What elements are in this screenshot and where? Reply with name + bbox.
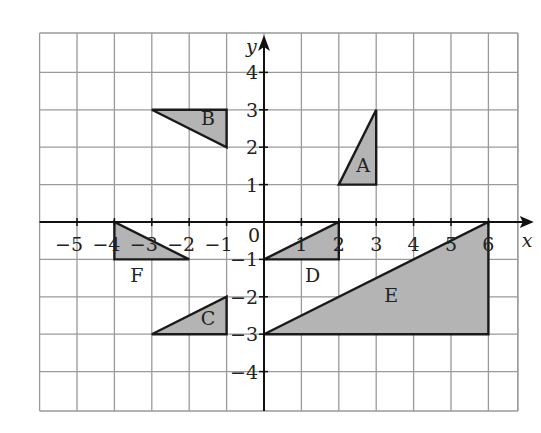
y-axis-label: y [245,35,257,57]
x-tick-label: 2 [333,233,345,255]
shape-label-f: F [130,264,143,286]
shape-label-c: C [201,307,216,329]
x-tick-label: −3 [130,233,158,255]
grid-plot: xy0 −5−4−3−2−11234564321−1−2−3−4 ABCDEF [0,0,541,433]
x-tick-label: −5 [55,233,83,255]
shape-label-b: B [201,107,215,129]
y-tick-label: −4 [230,361,258,383]
x-tick-label: 1 [295,233,307,255]
y-tick-label: −1 [230,248,258,270]
x-tick-label: −4 [92,233,120,255]
x-axis-label: x [522,229,533,251]
y-tick-label: 4 [246,61,258,83]
y-tick-label: 1 [246,174,258,196]
x-tick-label: −1 [205,233,233,255]
y-tick-label: −3 [230,323,258,345]
y-tick-label: −2 [230,286,258,308]
origin-label: 0 [248,224,260,246]
shape-label-d: D [305,264,320,286]
x-tick-label: 3 [370,233,382,255]
x-tick-label: 5 [445,233,457,255]
y-tick-label: 2 [246,136,258,158]
coordinate-grid-diagram: xy0 −5−4−3−2−11234564321−1−2−3−4 ABCDEF [0,0,541,433]
x-tick-label: −2 [167,233,195,255]
shape-label-a: A [355,154,370,176]
shape-label-e: E [384,284,398,306]
x-tick-label: 6 [482,233,494,255]
y-tick-label: 3 [246,99,258,121]
x-tick-label: 4 [408,233,420,255]
